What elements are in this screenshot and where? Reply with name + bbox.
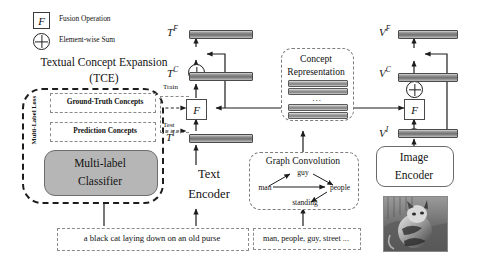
vf-feature-bar [398, 30, 458, 39]
tf-feature-bar [189, 30, 253, 39]
multi-label-loss-label: Multi-Label Loss [31, 96, 38, 145]
input-caption: a black cat laying down on an old purse [84, 234, 221, 243]
vi-sup: I [386, 125, 388, 134]
text-fusion-operation: F [186, 99, 207, 120]
legend-sum-label: Element-wise Sum [59, 36, 115, 44]
vf-base: V [379, 26, 386, 38]
vf-label: VF [379, 25, 390, 38]
concept-bar [288, 80, 348, 87]
element-wise-sum-icon [33, 33, 50, 50]
concept-ellipsis: ... [312, 94, 322, 103]
ti-label: TI [166, 130, 175, 143]
ti-feature-bar [189, 134, 253, 143]
graph-node-standing: standing [292, 199, 318, 207]
vf-sup: F [386, 24, 391, 33]
train-test-routing [160, 96, 189, 133]
tc-label: TC [167, 66, 178, 79]
concept-title-line1: Concept [300, 54, 332, 64]
ti-sup: I [172, 129, 174, 138]
vi-feature-bar [398, 129, 458, 138]
vc-sup: C [386, 65, 391, 74]
tc-sup: C [173, 65, 178, 74]
legend-fusion-icon: F [33, 12, 50, 29]
vc-label: VC [379, 66, 391, 79]
image-encoder-line1: Image [400, 151, 429, 163]
tce-title-line1: Textual Concept Expansion [41, 56, 168, 68]
text-encoder-line1: Text [198, 168, 220, 181]
vc-feature-bar [398, 73, 458, 82]
graph-node-man: man [258, 184, 271, 192]
graph-node-people: people [330, 184, 350, 192]
prediction-concepts-label: Prediction Concepts [73, 127, 137, 135]
input-image-thumbnail [383, 196, 448, 252]
concept-bar [288, 112, 348, 119]
concept-list-text: man, people, guy, street ... [263, 235, 349, 244]
vi-label: VI [379, 126, 388, 139]
tf-label: TF [167, 25, 178, 38]
image-elementwise-sum [406, 81, 423, 98]
vi-base: V [379, 127, 386, 139]
legend-fusion-label: Fusion Operation [59, 15, 111, 23]
concept-title-line2: Representation [287, 67, 345, 77]
ground-truth-concepts-label: Ground-Truth Concepts [67, 98, 144, 106]
concept-bar [288, 104, 348, 111]
classifier-label-line1: Multi-label [74, 157, 126, 169]
tf-sup: F [173, 24, 178, 33]
tce-title-line2: (TCE) [89, 72, 118, 84]
train-label: Train [163, 84, 178, 91]
vc-base: V [379, 67, 386, 79]
image-encoder-line2: Encoder [395, 169, 433, 181]
graph-node-guy: guy [297, 169, 308, 177]
classifier-label-line2: Classifier [78, 175, 122, 187]
image-fusion-operation: F [404, 99, 425, 120]
tc-feature-bar [189, 72, 253, 81]
text-encoder-line2: Encoder [188, 188, 230, 201]
